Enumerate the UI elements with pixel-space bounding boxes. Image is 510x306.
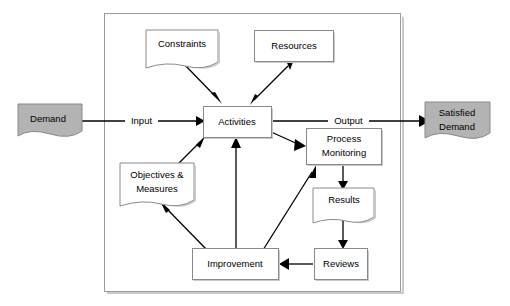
node-activities-label: Activities: [218, 116, 256, 127]
node-improvement-label: Improvement: [207, 258, 263, 269]
connector-results-to-reviews: [338, 219, 348, 249]
node-reviews[interactable]: Reviews: [315, 249, 370, 282]
node-reviews-label: Reviews: [323, 258, 359, 269]
node-satisfied-demand-label-line1: Satisfied: [439, 107, 475, 118]
node-results[interactable]: Results: [313, 188, 376, 223]
node-constraints[interactable]: Constraints: [146, 30, 220, 69]
node-results-label: Results: [328, 194, 360, 205]
node-satisfied-demand-label-line2: Demand: [439, 121, 475, 132]
flow-label-output: Output: [328, 114, 369, 128]
flow-label-output-text: Output: [334, 115, 363, 126]
node-activities[interactable]: Activities: [204, 107, 274, 140]
connector-improvement-to-activities: [231, 137, 241, 248]
node-objectives-measures-label-line2: Measures: [136, 183, 178, 194]
process-flow-diagram: Demand Constraints Resources Activities …: [0, 0, 510, 306]
node-process-monitoring-label-line1: Process: [327, 133, 362, 144]
flow-label-input: Input: [125, 114, 158, 128]
connector-improvement-to-objectives: [160, 201, 207, 250]
connector-resources-to-activities: [250, 58, 293, 105]
node-satisfied-demand[interactable]: Satisfied Demand: [425, 102, 490, 138]
node-constraints-label: Constraints: [158, 38, 206, 49]
connector-activities-to-process-monitoring: [269, 131, 306, 151]
node-resources[interactable]: Resources: [255, 31, 336, 64]
node-process-monitoring[interactable]: Process Monitoring: [307, 129, 384, 167]
node-objectives-measures[interactable]: Objectives & Measures: [120, 163, 196, 207]
connector-process-monitoring-to-results: [338, 164, 348, 190]
node-objectives-measures-label-line1: Objectives &: [130, 169, 184, 180]
connector-improvement-to-process-monitoring: [263, 165, 316, 250]
connector-objectives-to-activities: [175, 136, 205, 167]
connector-reviews-to-improvement: [279, 258, 313, 270]
node-improvement[interactable]: Improvement: [193, 249, 281, 282]
process-diagram-canvas: Demand Constraints Resources Activities …: [0, 0, 510, 306]
node-demand[interactable]: Demand: [18, 104, 82, 136]
node-demand-label: Demand: [30, 113, 66, 124]
flow-label-input-text: Input: [131, 115, 152, 126]
node-resources-label: Resources: [271, 40, 317, 51]
node-process-monitoring-label-line2: Monitoring: [322, 147, 366, 158]
